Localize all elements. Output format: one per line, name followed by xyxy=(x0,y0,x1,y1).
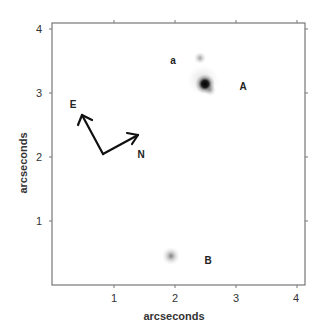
source-A xyxy=(195,74,215,94)
y-axis-title: arcseconds xyxy=(17,132,29,193)
plot-frame xyxy=(52,23,305,285)
x-axis-title: arcseconds xyxy=(143,310,204,322)
y-tick-label-2: 2 xyxy=(36,151,42,163)
y-tick-label-4: 4 xyxy=(36,23,42,35)
label-A: A xyxy=(239,81,246,92)
source-a xyxy=(194,52,206,64)
label-a: a xyxy=(170,55,176,66)
x-tick-label-4: 4 xyxy=(293,292,299,304)
x-tick-label-2: 2 xyxy=(172,292,178,304)
label-E: E xyxy=(70,99,77,110)
x-tick-label-1: 1 xyxy=(111,292,117,304)
y-tick-label-1: 1 xyxy=(36,215,42,227)
source-B xyxy=(162,247,180,265)
y-tick-label-3: 3 xyxy=(36,87,42,99)
label-B: B xyxy=(204,255,211,266)
label-N: N xyxy=(137,149,144,160)
x-tick-label-3: 3 xyxy=(233,292,239,304)
figure: 1 2 3 4 4 3 2 1 arcseconds arcseconds a … xyxy=(0,0,323,334)
